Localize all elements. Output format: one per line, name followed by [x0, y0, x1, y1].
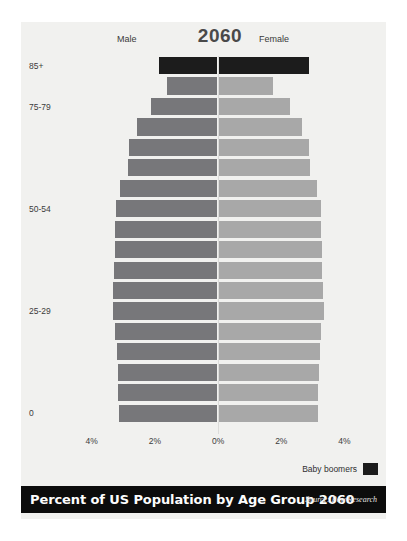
bar-male-80-84	[167, 77, 217, 94]
bar-male-40-44	[115, 241, 217, 258]
age-label-0-4: 0	[29, 408, 81, 418]
chart-year-title: 2060	[187, 25, 253, 47]
bar-female-40-44	[219, 241, 321, 258]
legend-label: Baby boomers	[302, 464, 357, 474]
bar-male-85+	[159, 57, 217, 74]
pyramid-row	[21, 384, 386, 401]
bar-male-65-69	[129, 139, 217, 156]
female-axis-label: Female	[259, 34, 289, 44]
bar-female-85+	[219, 57, 308, 74]
chart-header: Male 2060 Female	[21, 22, 386, 56]
bar-male-25-29	[113, 302, 217, 319]
legend-swatch-boomers	[363, 463, 378, 475]
bar-female-5-9	[219, 384, 318, 401]
bar-female-20-24	[219, 323, 321, 340]
pyramid-row	[21, 139, 386, 156]
bar-male-45-49	[115, 221, 216, 238]
footer-bar: Percent of US Population by Age Group 20…	[21, 486, 386, 513]
bar-female-50-54	[219, 200, 320, 217]
bar-female-35-39	[219, 262, 322, 279]
pyramid-row	[21, 77, 386, 94]
age-label-50-54: 50-54	[29, 204, 81, 214]
age-label-75-79: 75-79	[29, 102, 81, 112]
bar-female-10-14	[219, 364, 319, 381]
legend: Baby boomers	[302, 462, 378, 475]
bar-male-35-39	[114, 262, 217, 279]
bar-female-25-29	[219, 302, 324, 319]
bar-male-15-19	[117, 343, 217, 360]
x-axis-ticks: 4%2%0%2%4%	[21, 436, 386, 452]
x-tick-3: 2%	[261, 436, 301, 446]
pyramid-row	[21, 118, 386, 135]
bar-female-0-4	[219, 405, 317, 422]
bar-male-70-74	[137, 118, 217, 135]
bar-female-15-19	[219, 343, 319, 360]
x-tick-4: 4%	[325, 436, 365, 446]
pyramid-row	[21, 262, 386, 279]
bar-female-65-69	[219, 139, 309, 156]
pyramid-row	[21, 241, 386, 258]
pyramid-row	[21, 343, 386, 360]
pyramid-row	[21, 364, 386, 381]
pyramid-row	[21, 221, 386, 238]
bar-male-5-9	[118, 384, 217, 401]
bar-female-30-34	[219, 282, 323, 299]
pyramid-row	[21, 323, 386, 340]
chart-card: Male 2060 Female 85+75-7950-5425-290 4%2…	[21, 22, 386, 519]
male-axis-label: Male	[117, 34, 137, 44]
bar-male-60-64	[128, 159, 216, 176]
pyramid-row	[21, 159, 386, 176]
x-tick-0: 4%	[72, 436, 112, 446]
bar-female-80-84	[219, 77, 273, 94]
footer-source: Source: Pew Research	[305, 495, 377, 504]
bar-female-75-79	[219, 98, 289, 115]
bar-female-45-49	[219, 221, 321, 238]
bar-male-30-34	[113, 282, 217, 299]
bar-male-55-59	[120, 180, 216, 197]
pyramid-plot-area: 85+75-7950-5425-290	[21, 56, 386, 434]
bar-male-0-4	[119, 405, 217, 422]
x-tick-1: 2%	[135, 436, 175, 446]
bar-male-75-79	[151, 98, 217, 115]
pyramid-row	[21, 282, 386, 299]
x-tick-2: 0%	[198, 436, 238, 446]
bar-female-60-64	[219, 159, 309, 176]
bar-male-10-14	[118, 364, 217, 381]
bar-male-20-24	[115, 323, 217, 340]
pyramid-row	[21, 180, 386, 197]
bar-female-55-59	[219, 180, 317, 197]
bar-male-50-54	[116, 200, 217, 217]
age-label-85+: 85+	[29, 61, 81, 71]
bar-female-70-74	[219, 118, 302, 135]
age-label-25-29: 25-29	[29, 306, 81, 316]
